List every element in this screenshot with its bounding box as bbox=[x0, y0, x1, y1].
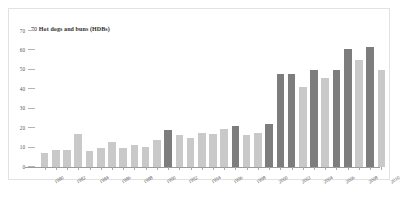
bar-1983 bbox=[74, 134, 82, 167]
bar-1997 bbox=[232, 126, 240, 167]
x-tick-label-1996: 1996 bbox=[233, 175, 244, 185]
bar-2001 bbox=[277, 74, 285, 167]
bar-2010 bbox=[378, 70, 386, 167]
y-tick-mark bbox=[28, 49, 35, 50]
y-axis: 706050403020100 bbox=[17, 23, 39, 175]
bar-2006 bbox=[333, 70, 341, 167]
x-tick-label-1980: 1980 bbox=[53, 175, 64, 185]
y-tick-label: 20 bbox=[20, 125, 25, 131]
bar-2008 bbox=[355, 60, 363, 167]
y-tick-label: 50 bbox=[20, 66, 25, 72]
bar-1984 bbox=[86, 151, 94, 167]
x-tick-label-1986: 1986 bbox=[120, 175, 131, 185]
bar-1998 bbox=[243, 135, 251, 167]
bar-1996 bbox=[220, 129, 228, 167]
y-tick-mark bbox=[28, 147, 35, 148]
x-tick-label-2006: 2006 bbox=[345, 175, 356, 185]
bar-1989 bbox=[142, 147, 150, 167]
x-tick-label-2008: 2008 bbox=[367, 175, 378, 185]
bar-1990 bbox=[153, 140, 161, 167]
bar-2009 bbox=[366, 47, 374, 167]
y-tick-label: 60 bbox=[20, 47, 25, 53]
bar-1995 bbox=[209, 134, 217, 167]
y-tick-mark bbox=[28, 127, 35, 128]
y-tick-60: 60 bbox=[5, 48, 25, 53]
bar-2000 bbox=[265, 124, 273, 167]
x-tick-label-2010: 2010 bbox=[390, 175, 401, 185]
x-tick-label-2002: 2002 bbox=[300, 175, 311, 185]
y-tick-label: 40 bbox=[20, 86, 25, 92]
y-tick-mark bbox=[28, 69, 35, 70]
x-tick-label-1998: 1998 bbox=[255, 175, 266, 185]
y-tick-50: 50 bbox=[5, 67, 25, 72]
y-tick-30: 30 bbox=[5, 106, 25, 111]
x-tick-label-1992: 1992 bbox=[188, 175, 199, 185]
bar-1988 bbox=[131, 145, 139, 167]
y-tick-70: 70 bbox=[5, 29, 25, 34]
y-tick-mark bbox=[28, 88, 35, 89]
bar-1991 bbox=[164, 130, 172, 167]
bar-2007 bbox=[344, 49, 352, 168]
x-tick-label-1988: 1988 bbox=[143, 175, 154, 185]
y-tick-0: 0 bbox=[5, 165, 25, 170]
y-tick-40: 40 bbox=[5, 87, 25, 92]
x-tick-label-1984: 1984 bbox=[98, 175, 109, 185]
bar-2003 bbox=[299, 87, 307, 167]
x-tick-label-1982: 1982 bbox=[76, 175, 87, 185]
x-tick-label-1994: 1994 bbox=[210, 175, 221, 185]
x-tick-label-2004: 2004 bbox=[323, 175, 334, 185]
bar-2002 bbox=[288, 74, 296, 167]
bar-series bbox=[39, 31, 387, 167]
y-tick-label: 70 bbox=[20, 28, 25, 34]
bar-1982 bbox=[63, 150, 71, 167]
bar-2004 bbox=[310, 70, 318, 167]
bar-1985 bbox=[97, 148, 105, 167]
bar-1987 bbox=[119, 148, 127, 167]
bar-1986 bbox=[108, 142, 116, 167]
y-tick-label: 10 bbox=[20, 144, 25, 150]
bar-2005 bbox=[321, 78, 329, 167]
x-tick-label-1990: 1990 bbox=[165, 175, 176, 185]
bar-1981 bbox=[52, 150, 60, 167]
bar-1993 bbox=[187, 138, 195, 167]
figure-caption bbox=[10, 185, 310, 194]
y-tick-mark bbox=[28, 30, 35, 31]
y-tick-label: 30 bbox=[20, 105, 25, 111]
chart-panel: 70 Hot dogs and buns (HDBs) 706050403020… bbox=[8, 8, 390, 180]
bar-1980 bbox=[41, 153, 49, 167]
bar-1992 bbox=[176, 135, 184, 167]
y-tick-mark bbox=[28, 108, 35, 109]
y-tick-20: 20 bbox=[5, 126, 25, 131]
bar-1999 bbox=[254, 133, 262, 167]
x-tick-label-2000: 2000 bbox=[278, 175, 289, 185]
y-tick-10: 10 bbox=[5, 145, 25, 150]
bar-1994 bbox=[198, 133, 206, 167]
